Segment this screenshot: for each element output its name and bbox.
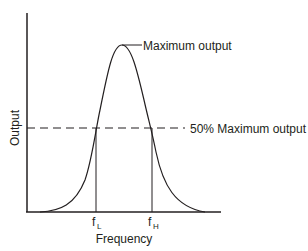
y-axis-label: Output (8, 109, 22, 146)
f-high-label: f H (148, 215, 159, 231)
svg-text:f: f (92, 215, 96, 229)
svg-text:H: H (153, 222, 159, 231)
f-low-label: f L (92, 215, 102, 231)
svg-text:f: f (148, 215, 152, 229)
peak-label: Maximum output (143, 39, 232, 53)
half-power-label: 50% Maximum output (190, 122, 307, 136)
svg-text:L: L (97, 222, 102, 231)
bandpass-response-diagram: Maximum output 50% Maximum output Output… (0, 0, 308, 251)
x-axis-label: Frequency (96, 232, 153, 246)
